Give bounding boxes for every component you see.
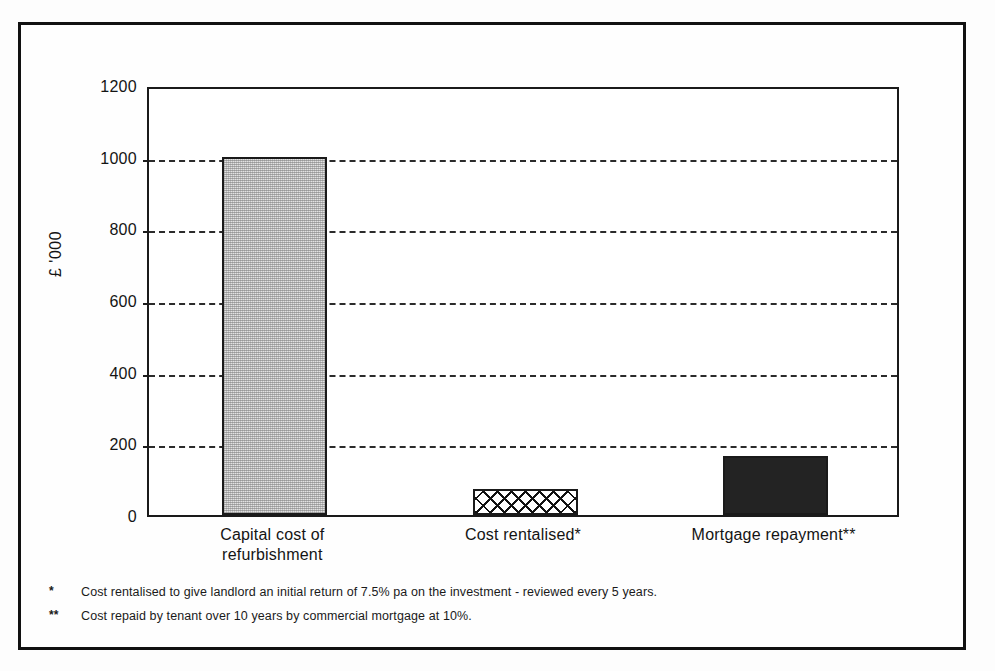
x-axis-category-line: Capital cost of: [147, 525, 398, 545]
x-axis-category-line: Cost rentalised*: [398, 525, 649, 545]
footnote-marker: *: [37, 585, 81, 598]
y-axis-tick-label: 1200: [100, 79, 137, 95]
y-axis-tick: [143, 303, 149, 305]
footnote-text: Cost repaid by tenant over 10 years by c…: [81, 609, 472, 624]
chart-figure-frame: £ '000 020040060080010001200 Capital cos…: [18, 22, 966, 650]
x-axis-category-labels: Capital cost ofrefurbishmentCost rentali…: [147, 525, 899, 585]
x-axis-category-label: Mortgage repayment**: [648, 525, 899, 545]
footnote-text: Cost rentalised to give landlord an init…: [81, 585, 657, 600]
y-axis-tick-label: 0: [128, 509, 137, 525]
y-axis-title: £ '000: [47, 231, 65, 277]
y-axis-tick: [143, 231, 149, 233]
y-axis-tick: [143, 375, 149, 377]
footnote-marker: **: [37, 609, 81, 622]
y-axis-tick-label: 200: [109, 437, 137, 453]
bar: [473, 489, 578, 515]
footnote-row: **Cost repaid by tenant over 10 years by…: [37, 609, 953, 624]
x-axis-category-line: refurbishment: [147, 545, 398, 565]
y-axis-tick-label: 800: [109, 222, 137, 238]
bar: [723, 456, 828, 515]
y-axis-tick-label: 600: [109, 294, 137, 310]
bar: [222, 157, 327, 515]
x-axis-category-label: Cost rentalised*: [398, 525, 649, 545]
y-axis-tick-label: 1000: [100, 151, 137, 167]
footnotes-block: *Cost rentalised to give landlord an ini…: [37, 585, 953, 633]
y-axis-tick: [143, 160, 149, 162]
plot-area: [147, 87, 899, 517]
footnote-row: *Cost rentalised to give landlord an ini…: [37, 585, 953, 600]
y-axis-tick-label: 400: [109, 366, 137, 382]
x-axis-category-label: Capital cost ofrefurbishment: [147, 525, 398, 565]
y-axis-tick-labels: 020040060080010001200: [77, 87, 137, 517]
y-axis-tick: [143, 446, 149, 448]
x-axis-category-line: Mortgage repayment**: [648, 525, 899, 545]
